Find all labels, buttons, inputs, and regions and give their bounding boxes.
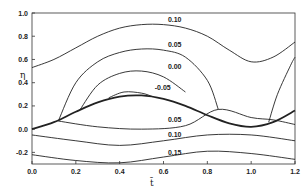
x-axis: 0.00.20.40.60.81.01.2 — [27, 161, 300, 175]
x-axis-label: t̄ — [150, 177, 154, 188]
x-tick-label: 0.2 — [71, 168, 81, 175]
y-tick-label: 0.0 — [18, 126, 28, 133]
contour-value-label: 0.05 — [168, 41, 182, 48]
contour-value-label: 0.10 — [168, 16, 182, 23]
contour-line — [32, 95, 295, 129]
x-tick-label: 0.0 — [27, 168, 37, 175]
contour-curves — [32, 24, 295, 163]
contour-chart: -0.20.00.20.40.60.81.0 0.00.20.40.60.81.… — [0, 0, 306, 192]
contour-line — [32, 24, 295, 67]
y-tick-label: 0.8 — [18, 33, 28, 40]
contour-value-label: 0.10 — [168, 131, 182, 138]
x-tick-label: 1.0 — [246, 168, 256, 175]
x-tick-label: 0.6 — [159, 168, 169, 175]
y-tick-label: 1.0 — [18, 10, 28, 17]
y-tick-label: -0.2 — [16, 149, 28, 156]
x-tick-label: 0.4 — [115, 168, 125, 175]
x-tick-label: 1.2 — [290, 168, 300, 175]
contour-value-label: 0.15 — [168, 149, 182, 156]
contour-value-label: 0.05 — [168, 116, 182, 123]
contour-value-label: -0.05 — [155, 84, 171, 91]
y-tick-label: 0.2 — [18, 102, 28, 109]
y-tick-label: 0.6 — [18, 56, 28, 63]
contour-value-label: 0.00 — [168, 63, 182, 70]
y-axis-label: η — [20, 70, 25, 80]
y-tick-label: 0.4 — [18, 79, 28, 86]
x-tick-label: 0.8 — [202, 168, 212, 175]
contour-line — [32, 134, 295, 145]
